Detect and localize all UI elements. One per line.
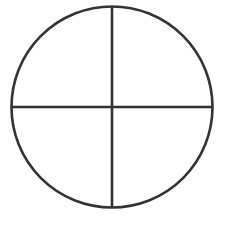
quadrant-circle-diagram <box>0 0 226 233</box>
